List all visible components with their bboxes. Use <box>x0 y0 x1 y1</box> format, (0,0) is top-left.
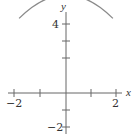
x-tick-label-2: 2 <box>112 97 119 110</box>
y-tick-label-4: 4 <box>52 18 59 31</box>
x-axis-label: x <box>125 86 131 98</box>
x-tick-label-neg2: −2 <box>6 97 22 110</box>
y-tick-label-neg2: −2 <box>47 121 63 134</box>
function-graph: y x 4 −2 −2 2 <box>0 0 134 138</box>
y-axis-label: y <box>60 0 66 12</box>
